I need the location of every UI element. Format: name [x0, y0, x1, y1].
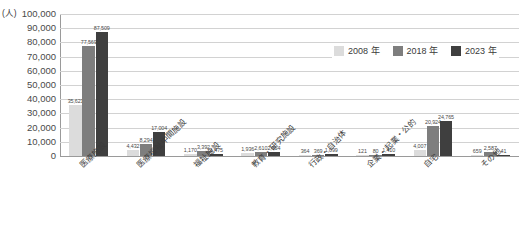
y-axis-tick-label: 100,000: [0, 8, 56, 19]
y-axis-tick-label: 10,000: [0, 136, 56, 147]
y-axis-tick-label: 90,000: [0, 22, 56, 33]
y-axis-tick-label: 30,000: [0, 107, 56, 118]
bar-group: 35,62177,56987,509: [60, 14, 117, 156]
bar[interactable]: [440, 121, 453, 156]
bar[interactable]: [184, 154, 197, 156]
y-axis-tick-label: 40,000: [0, 93, 56, 104]
legend-swatch-icon: [451, 46, 461, 56]
y-axis-tick-label: 50,000: [0, 79, 56, 90]
legend-swatch-icon: [334, 46, 344, 56]
bar-group: 4,00720,92424,765: [404, 14, 461, 156]
legend-item[interactable]: 2008 年: [334, 44, 380, 57]
bar[interactable]: [471, 155, 484, 156]
bar[interactable]: [241, 153, 254, 156]
y-axis-tick-label: 20,000: [0, 122, 56, 133]
bar-group: 1,1703,3921,475: [175, 14, 232, 156]
legend-swatch-icon: [393, 46, 403, 56]
bar[interactable]: [69, 105, 82, 156]
y-axis-tick-label: 0: [0, 150, 56, 161]
legend-item[interactable]: 2023 年: [451, 44, 497, 57]
y-axis-tick-label: 80,000: [0, 36, 56, 47]
bar[interactable]: [82, 46, 95, 156]
bar[interactable]: [127, 150, 140, 156]
bar[interactable]: [356, 155, 369, 156]
bar-value-label: 87,509: [89, 25, 116, 31]
legend-label: 2008 年: [348, 44, 380, 57]
bar-chart: (人) 100,00090,00080,00070,00060,00050,00…: [0, 0, 531, 236]
bar-group: 6592,58741: [462, 14, 519, 156]
y-axis-tick-labels: 100,00090,00080,00070,00060,00050,00040,…: [0, 0, 58, 236]
legend-label: 2023 年: [465, 44, 497, 57]
chart-legend: 2008 年2018 年2023 年: [332, 43, 499, 58]
bar[interactable]: [414, 150, 427, 156]
y-axis-tick-label: 70,000: [0, 51, 56, 62]
bar-value-label: 24,765: [433, 114, 460, 120]
gridline: [60, 156, 519, 157]
y-axis-tick-label: 60,000: [0, 65, 56, 76]
legend-label: 2018 年: [407, 44, 439, 57]
legend-item[interactable]: 2018 年: [393, 44, 439, 57]
bar[interactable]: [96, 32, 109, 156]
bar[interactable]: [299, 155, 312, 156]
